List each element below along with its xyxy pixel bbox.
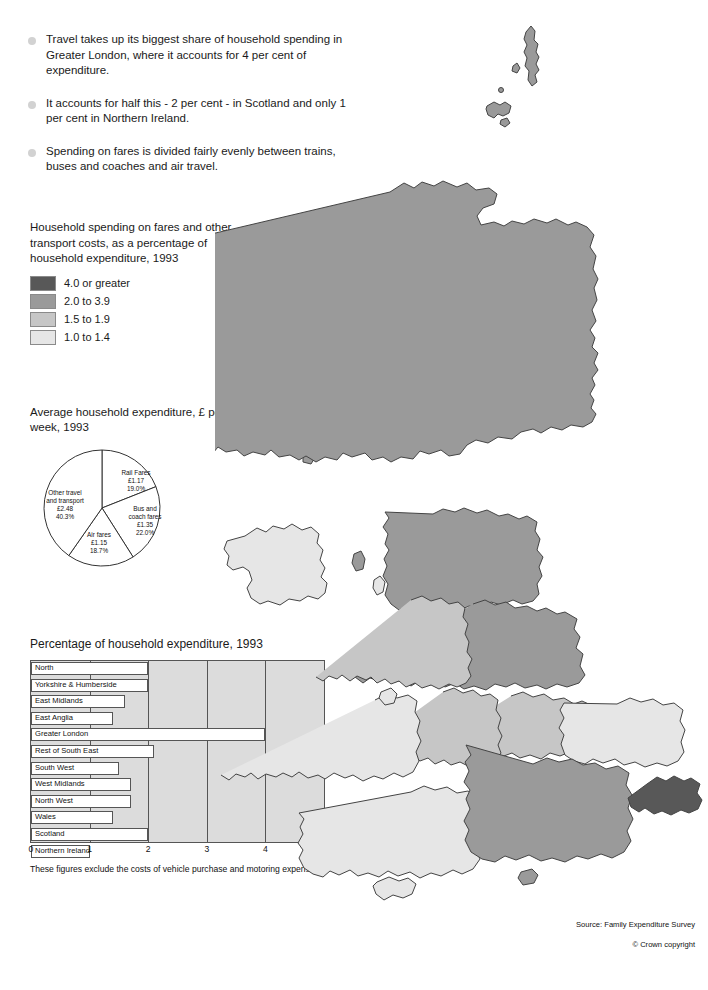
map-region-north-west — [316, 596, 472, 689]
pie-chart: Rail Fares £1.17 19.0% Bus and coach far… — [34, 443, 194, 573]
map-region-scotland-shetland-2 — [512, 63, 520, 73]
pie-label-amount: £2.48 — [40, 505, 90, 513]
bar-category-label: South West — [35, 763, 74, 772]
map-svg — [215, 20, 705, 930]
map-region-isle-of-wight — [518, 869, 538, 885]
axis-tick-label: 2 — [146, 844, 151, 854]
bar-category-label: West Midlands — [35, 779, 85, 788]
legend-swatch — [30, 312, 56, 327]
bar-category-label: Rest of South East — [35, 746, 98, 755]
legend-title: Household spending on fares and other tr… — [30, 220, 240, 267]
map-region-north — [383, 508, 543, 611]
bar-category-label: Yorkshire & Humberside — [35, 680, 117, 689]
pie-label-percent: 22.0% — [122, 529, 168, 537]
source-block: Source: Family Expenditure Survey © Crow… — [576, 920, 695, 949]
bar-category-label: East Anglia — [35, 713, 73, 722]
legend-swatch — [30, 330, 56, 345]
pie-slice-label-bus: Bus and coach fares £1.35 22.0% — [122, 505, 168, 537]
bar-category-label: Scotland — [35, 829, 65, 838]
pie-label-percent: 40.3% — [40, 513, 90, 521]
bar-category-label: Wales — [35, 812, 56, 821]
pie-label-percent: 18.7% — [78, 547, 120, 555]
map-region-scotland-orkney-2 — [500, 118, 510, 127]
legend-swatch — [30, 294, 56, 309]
map-region-scotland-shetland — [524, 26, 539, 86]
pie-slice-label-rail: Rail Fares £1.17 19.0% — [110, 469, 162, 493]
bullet-dot-icon — [28, 37, 36, 45]
axis-tick-label: 0 — [29, 844, 34, 854]
pie-label-name: Air fares — [78, 531, 120, 539]
bullet-dot-icon — [28, 101, 36, 109]
legend-item: 1.5 to 1.9 — [30, 312, 240, 327]
bar-category-label: North — [35, 663, 54, 672]
pie-chart-section: Average household expenditure, £ per wee… — [30, 405, 245, 573]
pie-slice-label-air: Air fares £1.15 18.7% — [78, 531, 120, 555]
map-region-isle-of-man — [373, 576, 385, 595]
map-region-scotland-orkney — [486, 102, 511, 118]
map-region-northern-ireland — [224, 524, 327, 605]
map-region-scotland — [215, 181, 598, 462]
legend-item: 1.0 to 1.4 — [30, 330, 240, 345]
axis-tick-label: 1 — [87, 844, 92, 854]
legend-label: 1.5 to 1.9 — [64, 313, 110, 325]
pie-label-amount: £1.15 — [78, 539, 120, 547]
pie-label-percent: 19.0% — [110, 485, 162, 493]
legend-label: 2.0 to 3.9 — [64, 295, 110, 307]
legend-item: 4.0 or greater — [30, 276, 240, 291]
map-region-east-anglia — [559, 698, 685, 767]
map-legend: Household spending on fares and other tr… — [30, 220, 240, 348]
pie-label-name: Rail Fares — [110, 469, 162, 477]
map-islet — [499, 88, 504, 93]
legend-swatch — [30, 276, 56, 291]
map-region-greater-london — [628, 776, 702, 815]
pie-slice-label-other: Other travel and transport £2.48 40.3% — [40, 489, 90, 521]
pie-label-name2: coach fares — [122, 513, 168, 521]
bar-category-label: North West — [35, 796, 73, 805]
legend-item: 2.0 to 3.9 — [30, 294, 240, 309]
map-region-rest-of-south-east — [464, 745, 633, 862]
pie-label-name2: and transport — [40, 497, 90, 505]
bullet-dot-icon — [28, 149, 36, 157]
map-islet — [352, 551, 365, 571]
legend-label: 4.0 or greater — [64, 277, 130, 289]
map-region-south-west — [298, 786, 482, 878]
pie-label-name: Bus and — [122, 505, 168, 513]
map-region-wales — [221, 694, 421, 781]
legend-label: 1.0 to 1.4 — [64, 331, 110, 343]
map-region-cornwall — [373, 877, 416, 900]
infographic-page: Travel takes up its biggest share of hou… — [0, 0, 708, 990]
copyright-notice: © Crown copyright — [576, 940, 695, 949]
pie-chart-title: Average household expenditure, £ per wee… — [30, 405, 245, 435]
pie-label-name: Other travel — [40, 489, 90, 497]
bar-category-label: East Midlands — [35, 696, 83, 705]
pie-label-amount: £1.35 — [122, 521, 168, 529]
axis-tick-label: 3 — [204, 844, 209, 854]
source-survey: Source: Family Expenditure Survey — [576, 920, 695, 929]
pie-label-amount: £1.17 — [110, 477, 162, 485]
bar-category-label: Greater London — [35, 729, 88, 738]
uk-choropleth-map — [215, 20, 705, 930]
